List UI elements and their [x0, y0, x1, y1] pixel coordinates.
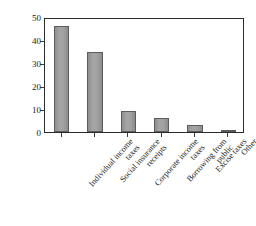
- bar: [54, 26, 69, 132]
- x-tick-mark: [227, 133, 228, 137]
- bar: [121, 111, 136, 132]
- y-tick-label: 20: [17, 83, 41, 92]
- y-tick-label: 0: [17, 129, 41, 138]
- x-tick-mark: [94, 133, 95, 137]
- y-tick-label: 50: [17, 14, 41, 23]
- y-tick-label: 30: [17, 60, 41, 69]
- x-tick-mark: [161, 133, 162, 137]
- bar-chart-figure: Percentage 01020304050 Individual income…: [0, 0, 256, 226]
- y-tick-label: 10: [17, 106, 41, 115]
- plot-area: [44, 18, 244, 133]
- y-tick-label: 40: [17, 37, 41, 46]
- x-tick-mark: [61, 133, 62, 137]
- bar: [87, 52, 102, 133]
- x-tick-mark: [194, 133, 195, 137]
- bar: [221, 130, 236, 132]
- y-axis-tick-labels: 01020304050: [0, 0, 44, 226]
- bar: [187, 125, 202, 132]
- bar-series: [45, 19, 243, 132]
- bar: [154, 118, 169, 132]
- x-axis-category-labels: Individual incometaxesSocial insurancere…: [44, 137, 256, 226]
